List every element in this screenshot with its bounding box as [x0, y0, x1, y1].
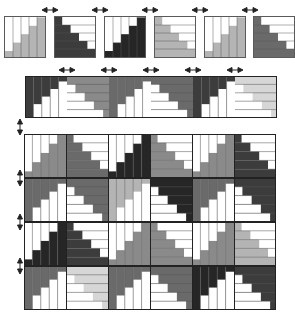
grid-block-r1-c6 — [234, 134, 276, 178]
grid-block-r1-c1 — [24, 134, 66, 178]
double-arrow-icon — [17, 170, 23, 186]
row1-block-6 — [253, 16, 295, 58]
double-arrow-icon — [42, 7, 58, 13]
grid-block-r1-c4 — [150, 134, 192, 178]
grid-block-r2-c6 — [234, 178, 276, 222]
grid-block-r4-c3 — [108, 266, 150, 310]
double-arrow-icon — [92, 7, 108, 13]
grid-column-seam — [192, 134, 193, 310]
grid-block-r4-c2 — [66, 266, 108, 310]
double-arrow-icon — [192, 7, 208, 13]
grid-block-r2-c4 — [150, 178, 192, 222]
grid-block-r3-c3 — [108, 222, 150, 266]
grid-block-r2-c2 — [66, 178, 108, 222]
row2-block-5 — [193, 76, 235, 118]
row2-block-4 — [151, 76, 193, 118]
grid-block-r4-c6 — [234, 266, 276, 310]
row2-block-3 — [109, 76, 151, 118]
row1-block-2 — [54, 16, 96, 58]
row1-block-5 — [204, 16, 246, 58]
row2-block-6 — [235, 76, 277, 118]
double-arrow-icon — [17, 214, 23, 230]
grid-column-seam — [234, 134, 235, 310]
grid-block-r1-c5 — [192, 134, 234, 178]
grid-block-r4-c4 — [150, 266, 192, 310]
row2-block-1 — [25, 76, 67, 118]
row1-block-4 — [154, 16, 196, 58]
grid-block-r3-c4 — [150, 222, 192, 266]
grid-column-seam — [108, 134, 109, 310]
grid-block-r3-c5 — [192, 222, 234, 266]
double-arrow-icon — [17, 119, 23, 135]
grid-block-r2-c5 — [192, 178, 234, 222]
double-arrow-icon — [143, 67, 159, 73]
double-arrow-icon — [185, 67, 201, 73]
grid-column-seam — [150, 134, 151, 310]
row2-block-2 — [67, 76, 109, 118]
grid-block-r1-c2 — [66, 134, 108, 178]
double-arrow-icon — [101, 67, 117, 73]
grid-block-r2-c1 — [24, 178, 66, 222]
double-arrow-icon — [59, 67, 75, 73]
grid-column-seam — [66, 134, 67, 310]
grid-block-r3-c2 — [66, 222, 108, 266]
row1-block-3 — [104, 16, 146, 58]
grid-block-r1-c3 — [108, 134, 150, 178]
grid-block-r3-c1 — [24, 222, 66, 266]
double-arrow-icon — [227, 67, 243, 73]
grid-block-r4-c1 — [24, 266, 66, 310]
double-arrow-icon — [242, 7, 258, 13]
double-arrow-icon — [142, 7, 158, 13]
double-arrow-icon — [17, 258, 23, 274]
row1-block-1 — [4, 16, 46, 58]
grid-block-r3-c6 — [234, 222, 276, 266]
grid-block-r4-c5 — [192, 266, 234, 310]
grid-block-r2-c3 — [108, 178, 150, 222]
